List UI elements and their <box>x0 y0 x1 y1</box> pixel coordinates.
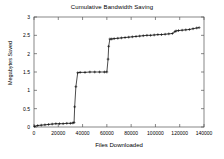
data-point-marker <box>76 71 79 74</box>
data-point-marker <box>149 34 152 37</box>
data-point-marker <box>120 37 123 40</box>
data-point-marker <box>51 123 54 126</box>
data-point-marker <box>156 33 159 36</box>
data-point-marker <box>181 29 184 32</box>
data-point-marker <box>103 71 106 74</box>
data-point-marker <box>138 35 141 38</box>
series-line <box>35 28 200 127</box>
data-point-marker <box>79 71 82 74</box>
data-point-marker <box>127 36 130 39</box>
data-point-marker <box>177 29 180 32</box>
data-point-marker <box>160 33 163 36</box>
data-point-marker <box>47 123 50 126</box>
axes <box>34 17 204 127</box>
data-point-marker <box>40 124 43 127</box>
plot-frame <box>34 17 204 127</box>
data-point-marker <box>135 35 138 38</box>
data-point-marker <box>65 122 68 125</box>
data-point-marker <box>84 71 87 74</box>
data-point-marker <box>62 122 65 125</box>
chart-container: Cumulative Bandwidth Saving Megabytes Sa… <box>0 0 224 159</box>
data-point-marker <box>142 34 145 37</box>
data-point-marker <box>88 71 91 74</box>
data-point-marker <box>73 105 76 108</box>
data-series <box>33 26 200 127</box>
data-point-marker <box>116 37 119 40</box>
data-point-marker <box>54 122 57 125</box>
data-point-marker <box>98 71 101 74</box>
data-point-marker <box>113 37 116 40</box>
data-point-marker <box>164 33 167 36</box>
data-point-marker <box>110 38 113 41</box>
data-point-marker <box>36 124 39 127</box>
data-point-marker <box>131 35 134 38</box>
data-point-marker <box>74 85 77 88</box>
data-point-marker <box>198 26 201 29</box>
data-point-marker <box>195 27 198 30</box>
plot-area <box>0 0 224 159</box>
data-point-marker <box>188 28 191 31</box>
data-point-marker <box>167 32 170 35</box>
data-point-marker <box>124 36 127 39</box>
data-point-marker <box>107 58 110 61</box>
data-point-marker <box>153 34 156 37</box>
data-point-marker <box>146 34 149 37</box>
data-point-marker <box>69 122 72 125</box>
data-point-marker <box>105 71 108 74</box>
data-point-marker <box>107 45 110 48</box>
data-point-marker <box>192 27 195 30</box>
data-point-marker <box>184 28 187 31</box>
data-point-marker <box>44 123 47 126</box>
data-point-marker <box>93 71 96 74</box>
